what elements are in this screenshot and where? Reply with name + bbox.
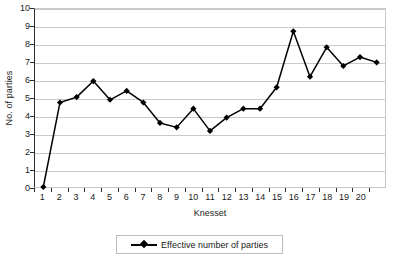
series-path xyxy=(43,31,376,187)
x-axis-tick-mark xyxy=(252,188,253,192)
x-axis-tick-label: 18 xyxy=(322,193,332,202)
data-point-marker xyxy=(357,54,363,60)
x-axis-tick-label: 14 xyxy=(255,193,265,202)
x-axis-tick-label: 4 xyxy=(90,193,95,202)
y-axis-title: No. of parties xyxy=(0,0,18,196)
x-axis-tick-mark xyxy=(235,188,236,192)
x-axis-tick-label: 2 xyxy=(57,193,62,202)
x-axis-tick-label: 20 xyxy=(356,193,366,202)
data-point-marker xyxy=(290,28,296,34)
x-axis-tick-label: 13 xyxy=(239,193,249,202)
x-axis-tick-label: 10 xyxy=(188,193,198,202)
plot-area xyxy=(34,8,386,188)
x-axis-tick-label: 8 xyxy=(157,193,162,202)
x-axis-tick-mark xyxy=(101,188,102,192)
x-axis-tick-label: 11 xyxy=(205,193,214,202)
y-axis-title-label: No. of parties xyxy=(4,71,14,126)
x-axis-tick-label: 15 xyxy=(272,193,282,202)
x-axis-tick-label: 3 xyxy=(73,193,78,202)
x-axis-tick-mark xyxy=(118,188,119,192)
x-axis-tick-mark xyxy=(302,188,303,192)
x-axis-tick-label: 17 xyxy=(306,193,316,202)
legend-marker-icon xyxy=(131,240,157,250)
data-point-marker xyxy=(307,74,313,80)
chart-container: No. of parties 012345678910 123456789101… xyxy=(0,0,398,263)
x-axis-tick-mark xyxy=(285,188,286,192)
legend-item-label: Effective number of parties xyxy=(161,240,268,250)
x-axis-tick-mark xyxy=(319,188,320,192)
y-axis-tick-label: 10 xyxy=(20,4,30,13)
data-point-marker xyxy=(240,106,246,112)
x-axis-tick-mark xyxy=(34,188,35,192)
x-axis-tick-label: 16 xyxy=(289,193,299,202)
x-axis-tick-mark xyxy=(51,188,52,192)
x-axis-tick-label: 5 xyxy=(107,193,112,202)
x-axis-tick-mark xyxy=(218,188,219,192)
x-axis-tick-label: 19 xyxy=(339,193,349,202)
x-axis-tick-mark xyxy=(168,188,169,192)
x-axis-tick-mark xyxy=(269,188,270,192)
x-axis-tick-mark xyxy=(68,188,69,192)
x-axis-tick-label: 9 xyxy=(174,193,179,202)
x-axis-tick-mark xyxy=(185,188,186,192)
x-axis-tick-label: 7 xyxy=(140,193,145,202)
x-axis-tick-label: 12 xyxy=(222,193,232,202)
data-point-marker xyxy=(374,59,380,65)
x-axis-tick-mark xyxy=(135,188,136,192)
x-axis-tick-mark xyxy=(151,188,152,192)
data-point-marker xyxy=(57,99,63,105)
x-axis-tick-labels: 1234567891011121314151617181920 xyxy=(34,193,386,205)
x-axis-tick-mark xyxy=(84,188,85,192)
x-axis-tick-mark xyxy=(202,188,203,192)
chart-legend: Effective number of parties xyxy=(116,235,283,254)
x-axis-title: Knesset xyxy=(34,208,386,218)
series-line-effective-number-of-parties xyxy=(35,9,385,187)
x-axis-tick-mark xyxy=(369,188,370,192)
x-axis-tick-mark xyxy=(336,188,337,192)
x-axis-tick-mark xyxy=(352,188,353,192)
x-axis-tick-label: 1 xyxy=(40,193,45,202)
x-axis-tick-label: 6 xyxy=(124,193,129,202)
